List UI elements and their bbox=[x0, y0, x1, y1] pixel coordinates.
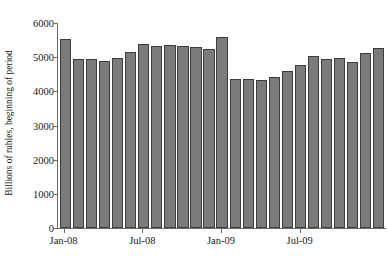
x-axis-tick-label: Jul-09 bbox=[287, 234, 313, 248]
x-axis-tick-mark bbox=[142, 228, 143, 233]
bar bbox=[360, 53, 371, 228]
x-axis-tick-mark bbox=[64, 228, 65, 233]
bar bbox=[282, 71, 293, 228]
bar bbox=[99, 61, 110, 228]
bar bbox=[347, 62, 358, 228]
x-axis-tick-label: Jan-09 bbox=[207, 234, 235, 248]
bar bbox=[203, 49, 214, 228]
y-axis-tick-label: 2000 bbox=[16, 154, 54, 165]
y-axis-tick-labels: 0100020003000400050006000 bbox=[16, 18, 54, 234]
bar bbox=[190, 47, 201, 228]
bar bbox=[73, 59, 84, 228]
x-axis-tick-marks bbox=[57, 228, 385, 233]
bar-chart-figure: Billions of rubles, beginning of period … bbox=[0, 0, 388, 267]
bar-series bbox=[58, 23, 386, 228]
y-axis-title: Billions of rubles, beginning of period bbox=[2, 8, 16, 238]
x-axis-tick-mark bbox=[221, 228, 222, 233]
bar bbox=[256, 80, 267, 228]
bar bbox=[243, 79, 254, 228]
bar bbox=[269, 77, 280, 228]
bar bbox=[216, 37, 227, 228]
y-axis-tick-label: 0 bbox=[16, 223, 54, 234]
x-axis-tick-label: Jan-08 bbox=[50, 234, 78, 248]
bar bbox=[230, 79, 241, 228]
bar bbox=[60, 39, 71, 228]
y-axis-tick-label: 6000 bbox=[16, 18, 54, 29]
bar bbox=[373, 48, 384, 228]
bar bbox=[177, 46, 188, 228]
bar bbox=[295, 65, 306, 228]
y-axis-tick-label: 5000 bbox=[16, 52, 54, 63]
bar bbox=[86, 59, 97, 228]
bar bbox=[308, 56, 319, 228]
bar bbox=[125, 52, 136, 228]
y-axis-tick-label: 1000 bbox=[16, 188, 54, 199]
bar bbox=[112, 58, 123, 228]
bar bbox=[164, 45, 175, 228]
bar bbox=[138, 44, 149, 229]
x-axis-tick-label: Jul-08 bbox=[129, 234, 155, 248]
bar bbox=[321, 59, 332, 228]
bar bbox=[334, 58, 345, 228]
plot-area bbox=[57, 23, 386, 229]
x-axis-tick-mark bbox=[300, 228, 301, 233]
y-axis-tick-label: 3000 bbox=[16, 120, 54, 131]
x-axis-tick-labels: Jan-08Jul-08Jan-09Jul-09 bbox=[57, 234, 388, 250]
bar bbox=[151, 46, 162, 228]
y-axis-tick-label: 4000 bbox=[16, 86, 54, 97]
